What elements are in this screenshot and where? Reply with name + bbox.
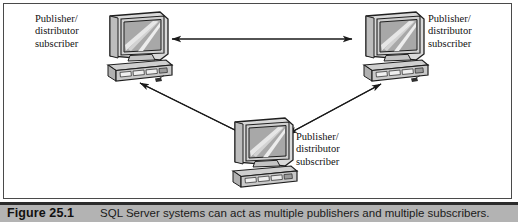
- node-label-line: subscriber: [428, 38, 472, 50]
- node-label-top-left: Publisher/ distributor subscriber: [35, 13, 79, 50]
- node-label-line: Publisher/: [428, 13, 472, 25]
- figure-frame: Publisher/ distributor subscriber: [3, 3, 512, 199]
- figure-caption-label: Figure 25.1: [7, 206, 74, 220]
- computer-icon-bottom-center: [223, 114, 301, 190]
- node-label-line: Publisher/: [35, 13, 79, 25]
- desktop-computer-icon: [223, 114, 301, 190]
- node-label-line: subscriber: [35, 38, 79, 50]
- node-label-line: subscriber: [296, 156, 340, 168]
- node-label-bottom-center: Publisher/ distributor subscriber: [296, 131, 340, 168]
- desktop-computer-icon: [354, 8, 432, 84]
- computer-icon-top-right: [354, 8, 432, 84]
- node-label-line: Publisher/: [296, 131, 340, 143]
- figure-page: Publisher/ distributor subscriber: [0, 0, 518, 222]
- node-label-top-right: Publisher/ distributor subscriber: [428, 13, 472, 50]
- figure-caption-text: SQL Server systems can act as multiple p…: [100, 207, 489, 219]
- figure-caption-bar: Figure 25.1 SQL Server systems can act a…: [0, 202, 518, 222]
- node-label-line: distributor: [296, 143, 340, 155]
- node-label-line: distributor: [428, 25, 472, 37]
- computer-icon-top-left: [98, 8, 176, 84]
- figure-caption: Figure 25.1 SQL Server systems can act a…: [7, 206, 490, 220]
- arrow-bottom-topright: [288, 84, 381, 134]
- node-label-line: distributor: [35, 25, 79, 37]
- desktop-computer-icon: [98, 8, 176, 84]
